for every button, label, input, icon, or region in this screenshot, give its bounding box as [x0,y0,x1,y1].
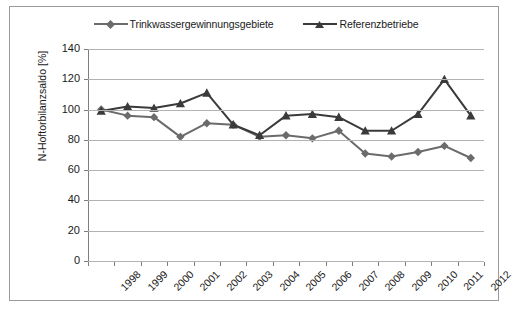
y-axis-tick-labels: 020406080100120140 [40,42,80,268]
legend-entry-trinkwassergewinnungsgebiete[interactable]: Trinkwassergewinnungsgebiete [94,18,274,30]
gridline [88,49,484,50]
legend-label-series-1: Trinkwassergewinnungsgebiete [130,18,274,30]
gridline [88,140,484,141]
y-axis-tick-label: 0 [74,254,80,267]
x-axis-tick-label: 2010 [435,268,460,293]
triangle-marker-icon [315,20,324,29]
x-axis-tick-label: 2001 [197,268,222,293]
x-axis-tick-label: 2009 [408,268,433,293]
chart-legend: Trinkwassergewinnungsgebiete Referenzbet… [0,14,512,34]
x-axis-tick-label: 2003 [250,268,275,293]
y-axis-tick-label: 140 [62,42,80,55]
x-axis-tick-label: 2005 [303,268,328,293]
legend-key-diamond-icon [94,18,128,30]
y-axis-tick-label: 60 [68,163,80,176]
legend-entry-referenzbetriebe[interactable]: Referenzbetriebe [303,18,418,30]
legend-label-series-2: Referenzbetriebe [339,18,418,30]
x-axis-tick-label: 2002 [224,268,249,293]
y-axis-tick-label: 40 [68,193,80,206]
gridline [88,110,484,111]
x-axis-tick-label: 2006 [329,268,354,293]
x-axis-tick-label: 1998 [118,268,143,293]
x-axis-tick-labels: 1998199920002001200220032004200520062007… [88,266,488,300]
y-axis-tick-label: 100 [62,103,80,116]
gridline [88,231,484,232]
x-axis-tick-label: 1999 [144,268,169,293]
gridline [88,170,484,171]
x-axis-tick-label: 2011 [461,268,485,292]
legend-key-triangle-icon [303,18,337,30]
y-axis-tick-label: 120 [62,72,80,85]
x-axis-tick-label: 2000 [171,268,196,293]
plot-area [88,49,484,261]
diamond-marker-icon [106,20,115,29]
y-axis-tick-label: 20 [68,224,80,237]
x-axis-tick-label: 2008 [382,268,407,293]
y-axis-tick-label: 80 [68,133,80,146]
chart-figure: Trinkwassergewinnungsgebiete Referenzbet… [0,0,512,315]
gridline [88,200,484,201]
x-axis-tick-label: 2007 [356,268,381,293]
x-axis-tick-label: 2004 [276,268,301,293]
gridlines [88,49,484,261]
gridline [88,79,484,80]
